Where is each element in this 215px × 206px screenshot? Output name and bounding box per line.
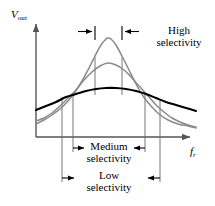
- curve-medium-selectivity: [36, 63, 196, 127]
- low-selectivity-label-line2: selectivity: [77, 182, 141, 194]
- x-axis-label: fr: [190, 146, 196, 159]
- low-selectivity-label: Low selectivity: [77, 170, 141, 193]
- curve-low-selectivity: [36, 88, 196, 111]
- selectivity-figure: Vout fr High selectivity Medium selectiv…: [0, 0, 215, 206]
- y-axis-label-main: V: [11, 8, 18, 20]
- curve-high-selectivity: [36, 38, 196, 128]
- y-axis-label: Vout: [11, 9, 27, 22]
- curve-group: [36, 38, 196, 128]
- x-axis-label-subscript: r: [193, 151, 196, 159]
- medium-selectivity-label-line1: Medium: [90, 140, 127, 152]
- y-axis-label-subscript: out: [18, 14, 27, 22]
- high-selectivity-label-line1: High: [168, 24, 190, 36]
- high-selectivity-label-line2: selectivity: [147, 37, 211, 49]
- medium-selectivity-label-line2: selectivity: [77, 153, 141, 165]
- high-selectivity-label: High selectivity: [147, 25, 211, 48]
- low-selectivity-label-line1: Low: [99, 169, 119, 181]
- medium-selectivity-label: Medium selectivity: [77, 141, 141, 164]
